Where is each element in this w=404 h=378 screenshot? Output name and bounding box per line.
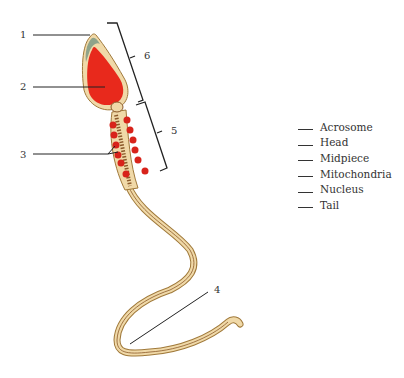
mitochondrion [142, 168, 149, 175]
callout-number-6: 6 [144, 50, 150, 61]
callout-number-1: 1 [20, 29, 26, 40]
mitochondrion [132, 147, 139, 154]
mitochondrion [124, 117, 131, 124]
mitochondrion [123, 171, 130, 178]
answer-blank[interactable] [298, 145, 313, 146]
answer-blank[interactable] [298, 176, 313, 177]
legend-item-acrosome: Acrosome [298, 119, 392, 135]
tail [117, 185, 240, 353]
legend-item-head: Head [298, 135, 392, 151]
callout-number-2: 2 [20, 81, 26, 92]
mitochondrion [135, 157, 142, 164]
callout-number-4: 4 [214, 284, 220, 295]
callout-number-3: 3 [20, 149, 26, 160]
answer-legend: Acrosome Head Midpiece Mitochondria Nucl… [298, 119, 392, 213]
head [82, 34, 127, 112]
mitochondrion [130, 137, 137, 144]
answer-blank[interactable] [298, 160, 313, 161]
answer-blank[interactable] [298, 129, 313, 130]
mitochondrion [110, 122, 117, 129]
mitochondrion [118, 160, 125, 167]
answer-blank[interactable] [298, 207, 313, 208]
callout-number-5: 5 [171, 125, 177, 136]
mitochondrion [111, 132, 118, 139]
mitochondrion [127, 127, 134, 134]
answer-blank[interactable] [298, 192, 313, 193]
legend-item-tail: Tail [298, 197, 392, 213]
legend-item-nucleus: Nucleus [298, 181, 392, 197]
midpiece [110, 110, 149, 190]
legend-item-midpiece: Midpiece [298, 150, 392, 166]
legend-item-mitochondria: Mitochondria [298, 166, 392, 182]
